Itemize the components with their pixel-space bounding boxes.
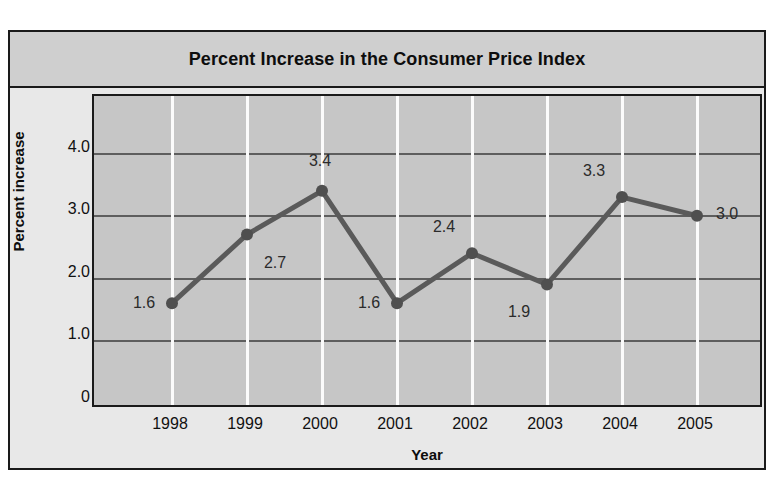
data-label-1998: 1.6 <box>133 294 155 312</box>
chart-figure: Percent Increase in the Consumer Price I… <box>8 30 766 470</box>
data-label-2005: 3.0 <box>716 205 738 223</box>
data-point-2001 <box>391 297 403 309</box>
data-point-2000 <box>316 185 328 197</box>
data-label-2002: 2.4 <box>433 218 455 236</box>
series-polyline <box>172 191 697 303</box>
data-point-2005 <box>691 210 703 222</box>
data-point-2004 <box>616 191 628 203</box>
data-label-2003: 1.9 <box>508 303 530 321</box>
x-axis-title: Year <box>92 446 762 463</box>
data-label-2001: 1.6 <box>358 294 380 312</box>
page-title: Percent Increase in the Consumer Price I… <box>189 49 586 70</box>
plot-area: 1.62.73.41.62.41.93.33.0 <box>92 94 762 407</box>
data-label-2004: 3.3 <box>583 162 605 180</box>
data-label-2000: 3.4 <box>309 152 331 170</box>
data-point-1998 <box>166 297 178 309</box>
x-tick-label-2003: 2003 <box>527 415 563 433</box>
y-tick-label: 2.0 <box>46 263 90 281</box>
x-tick-label-2001: 2001 <box>377 415 413 433</box>
data-series-line <box>94 96 760 405</box>
series-markers <box>166 185 703 309</box>
x-tick-label-1999: 1999 <box>227 415 263 433</box>
x-tick-label-2002: 2002 <box>452 415 488 433</box>
x-tick-label-1998: 1998 <box>152 415 188 433</box>
y-tick-label: 4.0 <box>46 138 90 156</box>
y-axis-title: Percent increase <box>10 232 27 252</box>
x-tick-label-2005: 2005 <box>677 415 713 433</box>
data-point-2002 <box>466 247 478 259</box>
x-tick-label-2004: 2004 <box>602 415 638 433</box>
y-tick-label: 3.0 <box>46 200 90 218</box>
data-point-2003 <box>541 278 553 290</box>
data-point-1999 <box>241 229 253 241</box>
chart-title-band: Percent Increase in the Consumer Price I… <box>10 32 764 88</box>
x-tick-label-2000: 2000 <box>302 415 338 433</box>
y-axis-tick-labels: 0 1.0 2.0 3.0 4.0 <box>28 88 90 468</box>
chart-body: Percent increase 0 1.0 2.0 3.0 4.0 <box>10 88 764 468</box>
y-tick-label: 0 <box>46 388 90 406</box>
data-label-1999: 2.7 <box>264 254 286 272</box>
y-tick-label: 1.0 <box>46 325 90 343</box>
